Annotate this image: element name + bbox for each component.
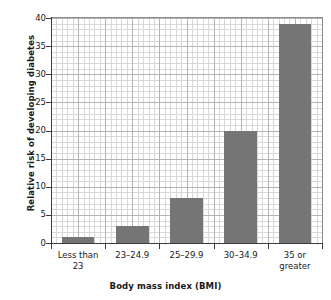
y-axis-tick-labels: 0510152025303540 [26,0,46,300]
y-axis-tick-label: 25 [28,98,46,107]
bar [224,131,257,244]
x-axis-tick-label-line: 35 or [262,250,328,261]
plot-border-right [322,17,323,244]
bar [279,24,312,243]
x-axis-tick-label: 35 orgreater [262,250,328,272]
y-axis-tick-label: 40 [28,14,46,23]
y-axis-tick-label: 5 [28,210,46,219]
x-axis-tick-mark [268,244,269,249]
x-axis-tick-mark [214,244,215,249]
x-axis-tick-labels: Less than2323–24.925–29.930–34.935 orgre… [51,250,323,282]
x-axis-tick-mark [159,244,160,249]
bar-chart: Relative risk of developing diabetes 051… [0,0,331,300]
y-axis-tick-label: 20 [28,126,46,135]
x-axis-tick-label-line: 23 [45,261,111,272]
plot-area [51,18,322,243]
x-axis-tick-marks [51,244,323,249]
y-axis-tick-label: 30 [28,70,46,79]
bar [170,198,203,243]
y-axis-tick-label: 0 [28,239,46,248]
x-axis-tick-mark [322,244,323,249]
bar-series [51,18,322,243]
y-axis-line [51,17,52,244]
x-axis-title: Body mass index (BMI) [0,281,331,291]
y-axis-tick-label: 15 [28,154,46,163]
x-axis-tick-mark [51,244,52,249]
y-axis-tick-label: 10 [28,182,46,191]
x-axis-tick-mark [105,244,106,249]
x-axis-tick-label-line: greater [262,261,328,272]
plot-border-top [51,17,323,18]
y-axis-tick-label: 35 [28,42,46,51]
bar [116,226,149,243]
